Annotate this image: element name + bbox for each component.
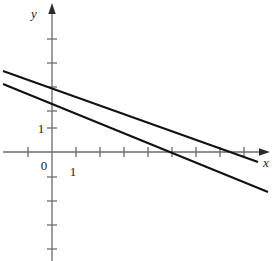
lower-line [3, 84, 268, 192]
coordinate-plane: y x 0 1 1 [0, 0, 275, 261]
x-axis-label: x [262, 155, 269, 170]
y-unit-tick-label: 1 [38, 121, 45, 136]
x-unit-tick-label: 1 [70, 164, 77, 179]
y-axis-label: y [29, 6, 37, 21]
y-axis-arrow-icon [48, 3, 55, 14]
upper-line [3, 71, 258, 162]
origin-label: 0 [41, 158, 48, 173]
line-graph-figure: y x 0 1 1 [0, 0, 275, 261]
